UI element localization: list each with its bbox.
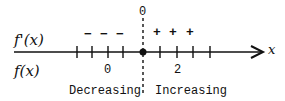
critical-point-label: 0: [139, 6, 146, 18]
sign-negative: −: [116, 28, 124, 41]
critical-point-dot: [140, 49, 147, 56]
derivative-row-label: f'(x): [14, 34, 44, 46]
sign-positive: +: [153, 26, 161, 39]
tick-label-left: 0: [104, 64, 111, 76]
tick-label-right: 2: [174, 64, 181, 76]
sign-positive: +: [169, 26, 177, 39]
sign-positive: +: [186, 26, 194, 39]
function-row-label: f(x): [14, 65, 40, 77]
sign-negative: −: [84, 28, 92, 41]
sign-negative: −: [100, 28, 108, 41]
region-label-increasing: Increasing: [155, 85, 227, 97]
region-label-decreasing: Decreasing: [69, 85, 141, 97]
x-axis-label: x: [268, 44, 275, 56]
